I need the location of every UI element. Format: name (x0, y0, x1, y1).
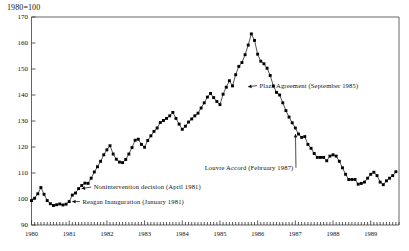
series-data-point (162, 119, 165, 122)
series-data-point (291, 121, 294, 124)
annotation-label: Plaza Agreement (September 1985) (260, 82, 359, 90)
series-data-point (222, 93, 225, 96)
y-tick-label: 100 (18, 195, 29, 203)
series-data-point (121, 161, 124, 164)
series-data-point (83, 182, 86, 185)
series-data-point (297, 133, 300, 136)
series-line-path (32, 34, 396, 206)
series-data-point (115, 158, 118, 161)
x-tick-label: 1986 (251, 230, 265, 237)
y-tick-label: 120 (18, 143, 29, 151)
data-series (30, 32, 397, 207)
series-data-point (99, 160, 102, 163)
series-data-point (219, 103, 222, 106)
series-data-point (140, 143, 143, 146)
series-data-point (146, 139, 149, 142)
series-data-point (105, 148, 108, 151)
annotation-label: Reagan Inauguration (January 1981) (82, 198, 184, 206)
series-data-point (184, 125, 187, 128)
series-data-point (350, 178, 353, 181)
x-tick-label: 1987 (289, 230, 303, 237)
series-data-point (225, 86, 228, 89)
series-data-point (344, 173, 347, 176)
series-data-point (391, 174, 394, 177)
series-data-point (30, 199, 33, 202)
series-data-point (363, 181, 366, 184)
series-data-point (175, 117, 178, 120)
series-data-point (39, 186, 42, 189)
plot-frame (32, 17, 400, 225)
series-data-point (193, 114, 196, 117)
series-data-point (354, 178, 357, 181)
series-data-point (209, 92, 212, 95)
series-data-point (259, 60, 262, 63)
series-data-point (316, 156, 319, 159)
series-data-point (376, 174, 379, 177)
series-data-point (36, 192, 39, 195)
x-axis-ticks: 1980198119821983198419851986198719881989 (25, 221, 399, 237)
series-data-point (215, 100, 218, 103)
series-data-point (284, 109, 287, 112)
series-data-point (332, 153, 335, 156)
series-data-point (71, 194, 74, 197)
series-data-point (269, 74, 272, 77)
series-data-point (275, 91, 278, 94)
series-data-point (288, 116, 291, 119)
y-axis-ticks: 90100110120130140150160170 (18, 13, 36, 229)
series-data-point (234, 73, 237, 76)
x-tick-label: 1989 (364, 230, 377, 237)
series-data-point (90, 177, 93, 180)
series-data-point (382, 183, 385, 186)
series-data-point (306, 143, 309, 146)
series-data-point (203, 101, 206, 104)
series-data-point (149, 134, 152, 137)
series-data-point (68, 200, 71, 203)
series-data-point (206, 96, 209, 99)
series-data-point (109, 144, 112, 147)
y-tick-label: 90 (21, 221, 29, 229)
series-data-point (61, 204, 64, 207)
series-data-point (58, 202, 61, 205)
series-data-point (322, 156, 325, 159)
series-data-point (102, 153, 105, 156)
series-data-point (178, 123, 181, 126)
series-data-point (335, 155, 338, 158)
series-data-point (159, 121, 162, 124)
series-data-point (49, 202, 52, 205)
series-data-point (80, 184, 83, 187)
x-tick-label: 1988 (327, 230, 340, 237)
series-data-point (112, 153, 115, 156)
series-data-point (190, 117, 193, 120)
series-data-point (143, 146, 146, 149)
series-data-point (369, 173, 372, 176)
series-data-point (131, 146, 134, 149)
x-tick-label: 1985 (213, 230, 226, 237)
series-data-point (65, 203, 68, 206)
series-data-point (263, 62, 266, 65)
series-data-point (137, 138, 140, 141)
series-data-point (33, 197, 36, 200)
x-tick-label: 1982 (100, 230, 113, 237)
y-tick-label: 140 (18, 91, 29, 99)
y-tick-label: 130 (18, 117, 29, 125)
annotation-arrowhead (294, 134, 298, 137)
series-data-point (93, 171, 96, 174)
series-data-point (310, 147, 313, 150)
series-data-point (181, 128, 184, 131)
series-data-point (379, 181, 382, 184)
annotation-arrowhead (72, 200, 75, 204)
series-data-point (74, 192, 77, 195)
series-data-point (165, 117, 168, 120)
series-data-point (43, 193, 46, 196)
series-data-point (328, 155, 331, 158)
series-data-point (325, 159, 328, 162)
x-tick-label: 1984 (176, 230, 190, 237)
x-tick-label: 1980 (25, 230, 38, 237)
series-data-point (253, 39, 256, 42)
series-data-point (388, 177, 391, 180)
series-data-point (231, 84, 234, 87)
series-data-point (77, 187, 80, 190)
series-data-point (46, 199, 49, 202)
chart-figure: 1980=100 90100110120130140150160170 1980… (0, 0, 409, 251)
series-data-point (338, 160, 341, 163)
